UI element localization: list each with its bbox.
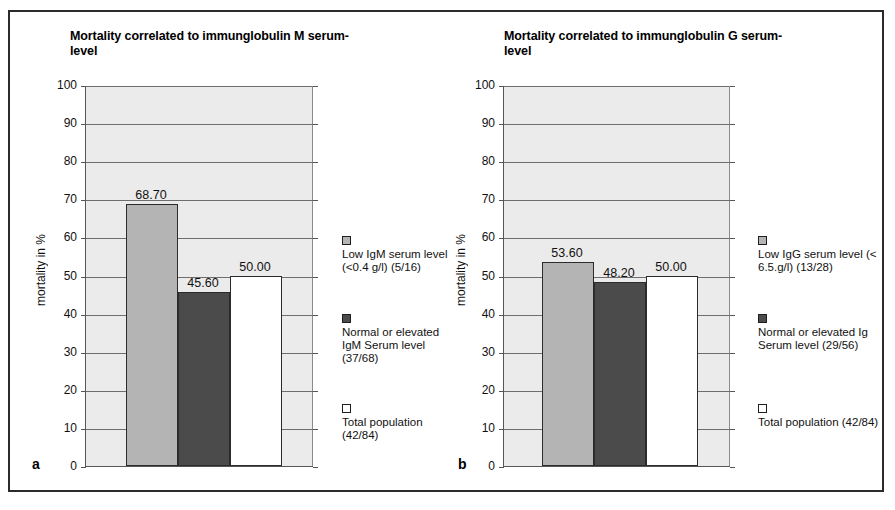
- y-axis-tick: [730, 353, 735, 354]
- chart-title-b: Mortality correlated to immunglobulin G …: [504, 29, 804, 59]
- y-axis-tick-label: 60: [461, 230, 495, 244]
- chart-panel-b: Mortality correlated to immunglobulin G …: [456, 12, 886, 490]
- legend-label: Low IgG serum level (< 6.5.g/l) (13/28): [758, 248, 880, 274]
- legend-label: Normal or elevated Ig Serum level (29/56…: [758, 326, 880, 352]
- y-axis-tick: [313, 429, 318, 430]
- plot-top-edge: [504, 86, 730, 87]
- y-axis-tick: [499, 391, 504, 392]
- y-axis-tick: [81, 124, 86, 125]
- y-axis-tick: [313, 238, 318, 239]
- gridline: [86, 238, 313, 239]
- bar-1: [126, 204, 178, 466]
- legend-label: Normal or elevated IgM Serum level (37/6…: [342, 326, 450, 366]
- legend-entry: Low IgM serum level (<0.4 g/l) (5/16): [342, 236, 450, 274]
- y-axis-tick: [81, 277, 86, 278]
- bar-value-label: 45.60: [171, 276, 235, 290]
- y-axis-tick-label: 50: [43, 269, 77, 283]
- gridline: [504, 162, 730, 163]
- y-axis-tick-label: 40: [461, 307, 495, 321]
- y-axis-tick: [313, 86, 318, 87]
- gridline: [86, 162, 313, 163]
- y-axis-tick: [81, 353, 86, 354]
- figure-frame: Mortality correlated to immunglobulin M …: [8, 10, 884, 492]
- y-axis-tick-label: 10: [43, 421, 77, 435]
- y-axis-tick-label: 70: [43, 192, 77, 206]
- y-axis-tick-label: 100: [461, 78, 495, 92]
- y-axis-tick: [499, 315, 504, 316]
- bar-2: [594, 282, 646, 466]
- legend-swatch-icon: [342, 404, 351, 413]
- y-axis-tick-label: 50: [461, 269, 495, 283]
- y-axis-tick-label: 10: [461, 421, 495, 435]
- y-axis-tick: [313, 315, 318, 316]
- legend-entry: Normal or elevated IgM Serum level (37/6…: [342, 314, 450, 366]
- bar-value-label: 68.70: [119, 188, 183, 202]
- bar-3: [646, 276, 698, 467]
- y-axis-tick: [730, 315, 735, 316]
- y-axis-tick: [730, 200, 735, 201]
- y-axis-tick: [730, 467, 735, 468]
- y-axis-tick: [499, 124, 504, 125]
- y-axis-tick: [730, 429, 735, 430]
- y-axis-tick: [81, 86, 86, 87]
- y-axis-tick: [313, 124, 318, 125]
- bar-3: [230, 276, 282, 467]
- y-axis-tick: [81, 200, 86, 201]
- gridline: [504, 124, 730, 125]
- legend-entry: Normal or elevated Ig Serum level (29/56…: [758, 314, 880, 352]
- y-axis-tick: [313, 200, 318, 201]
- y-axis-tick: [81, 391, 86, 392]
- y-axis-tick-label: 60: [43, 230, 77, 244]
- legend-swatch-icon: [758, 236, 767, 245]
- y-axis-tick: [499, 200, 504, 201]
- y-axis-tick: [313, 353, 318, 354]
- y-axis-tick: [730, 124, 735, 125]
- y-axis-tick-label: 40: [43, 307, 77, 321]
- y-axis-tick-label: 0: [461, 459, 495, 473]
- y-axis-tick: [730, 391, 735, 392]
- legend-entry: Total population (42/84): [342, 404, 450, 442]
- y-axis-tick: [499, 429, 504, 430]
- y-axis-tick: [499, 86, 504, 87]
- legend-entry: Low IgG serum level (< 6.5.g/l) (13/28): [758, 236, 880, 274]
- bar-value-label: 53.60: [535, 246, 599, 260]
- legend-label: Total population (42/84): [342, 416, 450, 442]
- y-axis-tick: [499, 277, 504, 278]
- y-axis-tick-label: 90: [461, 116, 495, 130]
- y-axis-tick: [730, 162, 735, 163]
- y-axis-tick: [313, 391, 318, 392]
- y-axis-tick: [81, 467, 86, 468]
- y-axis-tick-label: 0: [43, 459, 77, 473]
- y-axis-tick: [81, 315, 86, 316]
- y-axis-tick-label: 80: [461, 154, 495, 168]
- y-axis-tick-label: 30: [461, 345, 495, 359]
- y-axis-tick: [499, 467, 504, 468]
- y-axis-tick: [499, 162, 504, 163]
- y-axis-tick: [81, 238, 86, 239]
- y-axis-tick-label: 20: [461, 383, 495, 397]
- bar-1: [542, 262, 594, 466]
- bar-value-label: 50.00: [639, 260, 703, 274]
- y-axis-tick-label: 20: [43, 383, 77, 397]
- legend-swatch-icon: [342, 236, 351, 245]
- y-axis-tick: [313, 277, 318, 278]
- y-axis-tick: [730, 238, 735, 239]
- legend-label: Total population (42/84): [758, 416, 880, 429]
- y-axis-tick: [81, 429, 86, 430]
- y-axis-tick: [499, 238, 504, 239]
- chart-title-a: Mortality correlated to immunglobulin M …: [70, 29, 360, 59]
- legend-entry: Total population (42/84): [758, 404, 880, 429]
- legend-swatch-icon: [342, 314, 351, 323]
- plot-top-edge: [86, 86, 313, 87]
- legend-label: Low IgM serum level (<0.4 g/l) (5/16): [342, 248, 450, 274]
- legend-swatch-icon: [758, 314, 767, 323]
- y-axis-tick-label: 80: [43, 154, 77, 168]
- y-axis-tick-label: 70: [461, 192, 495, 206]
- y-axis-tick: [730, 277, 735, 278]
- y-axis-tick-label: 100: [43, 78, 77, 92]
- legend-swatch-icon: [758, 404, 767, 413]
- gridline: [504, 238, 730, 239]
- y-axis-tick: [81, 162, 86, 163]
- gridline: [504, 200, 730, 201]
- y-axis-tick: [499, 353, 504, 354]
